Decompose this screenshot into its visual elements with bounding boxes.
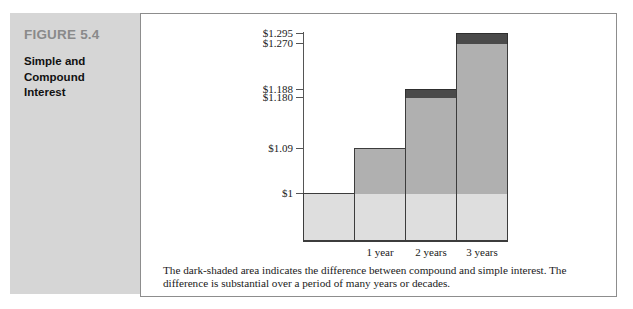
- y-axis-label-group: $1.295 $1.270 $1.188 $1.180 $1.09 $1: [183, 14, 293, 254]
- bar-compound-year2: [405, 89, 457, 98]
- figure-frame: $1.295 $1.270 $1.188 $1.180 $1.09 $1 1 y…: [140, 13, 617, 297]
- figure-title: Simple and Compound Interest: [24, 54, 120, 101]
- y-tick-1270: [296, 43, 303, 44]
- y-label-1180: $1.180: [263, 92, 293, 103]
- figure-caption: The dark-shaded area indicates the diffe…: [163, 264, 593, 290]
- y-tick-1295: [296, 33, 303, 34]
- chart-plot-area: $1.295 $1.270 $1.188 $1.180 $1.09 $1 1 y…: [141, 14, 618, 298]
- figure-label-panel: FIGURE 5.4 Simple and Compound Interest: [10, 13, 140, 294]
- bar-principal-year1: [354, 193, 406, 241]
- y-label-1270: $1.270: [263, 38, 293, 49]
- y-tick-1: [296, 193, 303, 194]
- y-tick-109: [296, 148, 303, 149]
- bar-simple-year1: [354, 148, 406, 194]
- figure-number: FIGURE 5.4: [24, 27, 140, 42]
- bar-simple-year2: [405, 97, 457, 194]
- bar-principal-year0: [303, 193, 355, 241]
- bar-principal-year2: [405, 193, 457, 241]
- y-tick-1180: [296, 97, 303, 98]
- y-label-1: $1: [282, 188, 293, 199]
- x-label-3-years: 3 years: [452, 246, 512, 258]
- bar-simple-year3: [456, 43, 508, 194]
- y-label-109: $1.09: [268, 143, 293, 154]
- bar-compound-year3: [456, 33, 508, 44]
- y-tick-1188: [296, 89, 303, 90]
- bar-principal-year3: [456, 193, 508, 241]
